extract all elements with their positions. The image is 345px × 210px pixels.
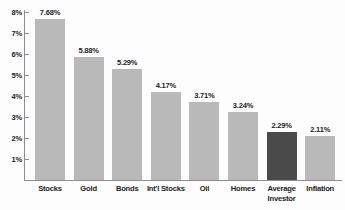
bar-value-label: 5.88% (78, 46, 98, 55)
bar-value-label: 7.68% (40, 8, 60, 17)
bar-value-label: 4.17% (156, 81, 176, 90)
bar-group: 2.29% (267, 132, 297, 180)
bar (228, 112, 258, 180)
bar-group: 4.17% (151, 92, 181, 180)
bar (74, 57, 104, 180)
bar-value-label: 3.71% (194, 91, 214, 100)
x-axis-category-label: Inflation (295, 184, 345, 194)
bar-chart: 8%7%6%5%4%3%2%1% 7.68%5.88%5.29%4.17%3.7… (0, 0, 345, 210)
bars-layer: 7.68%5.88%5.29%4.17%3.71%3.24%2.29%2.11% (0, 0, 345, 210)
bar (305, 136, 335, 180)
bar-value-label: 3.24% (233, 101, 253, 110)
bar-value-label: 5.29% (117, 58, 137, 67)
bar-highlighted (267, 132, 297, 180)
bar-value-label: 2.29% (271, 121, 291, 130)
bar-group: 7.68% (35, 19, 65, 180)
bar-group: 3.71% (189, 102, 219, 180)
bar (35, 19, 65, 180)
bar (151, 92, 181, 180)
bar-value-label: 2.11% (310, 125, 330, 134)
bar-group: 3.24% (228, 112, 258, 180)
bar-group: 5.88% (74, 57, 104, 180)
bar-group: 2.11% (305, 136, 335, 180)
bar-group: 5.29% (112, 69, 142, 180)
bar (112, 69, 142, 180)
bar (189, 102, 219, 180)
